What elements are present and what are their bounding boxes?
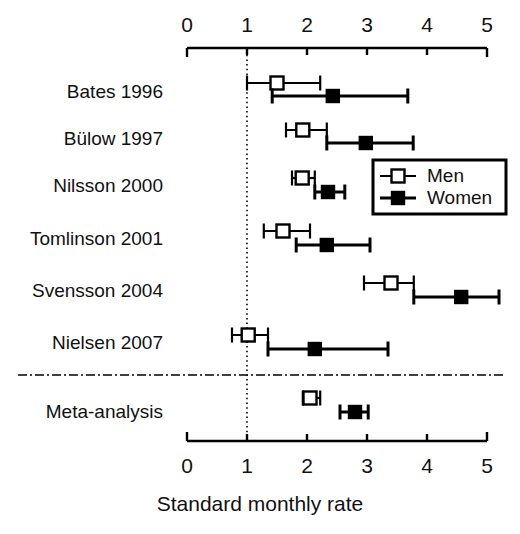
legend-marker-men[interactable] xyxy=(392,170,405,183)
study-label-bates-1996: Bates 1996 xyxy=(67,82,163,101)
women-b-low-1997-marker-filled-square[interactable] xyxy=(360,137,372,149)
men-tomlinson-2001-marker-open-square[interactable] xyxy=(277,225,290,238)
men-bates-1996-marker-open-square[interactable] xyxy=(271,77,284,90)
women-meta-analysis-marker-filled-square[interactable] xyxy=(349,406,361,418)
top-axis-label-2: 2 xyxy=(287,14,327,35)
legend-marker-women[interactable] xyxy=(392,192,404,204)
top-axis-label-3: 3 xyxy=(347,14,387,35)
women-tomlinson-2001-marker-filled-square[interactable] xyxy=(321,239,333,251)
bottom-axis-label-0: 0 xyxy=(167,455,207,476)
top-axis-label-4: 4 xyxy=(407,14,447,35)
women-svensson-2004-marker-filled-square[interactable] xyxy=(455,291,467,303)
study-label-nilsson-2000: Nilsson 2000 xyxy=(53,176,163,195)
men-svensson-2004-marker-open-square[interactable] xyxy=(385,277,398,290)
legend-label-women: Women xyxy=(427,188,492,207)
study-label-meta-analysis: Meta-analysis xyxy=(46,402,163,421)
men-b-low-1997-marker-open-square[interactable] xyxy=(296,124,309,137)
study-label-svensson-2004: Svensson 2004 xyxy=(32,281,163,300)
bottom-axis-label-5: 5 xyxy=(467,455,507,476)
bottom-axis-label-1: 1 xyxy=(227,455,267,476)
study-label-b-low-1997: Bülow 1997 xyxy=(64,129,163,148)
women-nielsen-2007-marker-filled-square[interactable] xyxy=(309,343,321,355)
women-bates-1996-marker-filled-square[interactable] xyxy=(327,90,339,102)
men-meta-analysis-marker-open-square[interactable] xyxy=(304,392,317,405)
legend-label-men: Men xyxy=(427,166,464,185)
study-label-nielsen-2007: Nielsen 2007 xyxy=(52,333,163,352)
top-axis-label-5: 5 xyxy=(467,14,507,35)
men-nielsen-2007-marker-open-square[interactable] xyxy=(242,329,255,342)
x-axis-title: Standard monthly rate xyxy=(0,493,520,514)
top-axis-label-0: 0 xyxy=(167,14,207,35)
women-nilsson-2000-marker-filled-square[interactable] xyxy=(322,186,334,198)
bottom-axis-label-4: 4 xyxy=(407,455,447,476)
bottom-axis-label-3: 3 xyxy=(347,455,387,476)
study-label-tomlinson-2001: Tomlinson 2001 xyxy=(30,229,163,248)
top-axis-label-1: 1 xyxy=(227,14,267,35)
men-nilsson-2000-marker-open-square[interactable] xyxy=(296,172,309,185)
bottom-axis-label-2: 2 xyxy=(287,455,327,476)
